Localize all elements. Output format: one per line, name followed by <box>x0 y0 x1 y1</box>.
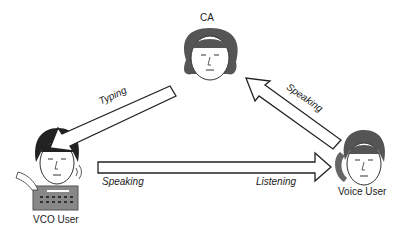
ca-face-icon <box>184 28 238 80</box>
voice-user-face-icon <box>335 130 385 185</box>
vco-user-label: VCO User <box>33 214 79 225</box>
ca-label: CA <box>200 12 214 23</box>
voice-user-label: Voice User <box>338 186 386 197</box>
speaking-label: Speaking <box>102 176 144 187</box>
listening-label: Listening <box>256 176 296 187</box>
relay-diagram: CA VCO User Voice User Typing Speaking S… <box>0 0 400 231</box>
